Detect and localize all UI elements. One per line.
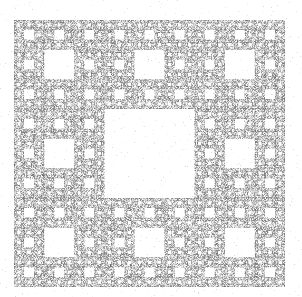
fractal-canvas <box>0 0 302 297</box>
sierpinski-carpet-figure: Sierpinski carpet fractal Sierpinski car… <box>0 0 302 297</box>
